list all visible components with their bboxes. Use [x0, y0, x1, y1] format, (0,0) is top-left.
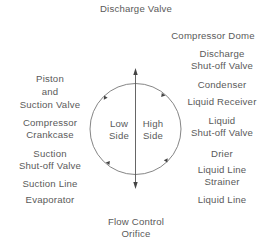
label-high-side: HighSide	[137, 118, 169, 143]
label-flow-control-orifice: Flow ControlOrifice	[95, 216, 177, 241]
label-liquid-shutoff-valve: LiquidShut-off Valve	[180, 115, 264, 140]
down-arrow-icon	[133, 182, 137, 189]
label-low-side: LowSide	[104, 118, 134, 143]
label-drier: Drier	[180, 148, 264, 160]
label-liquid-receiver: Liquid Receiver	[178, 96, 266, 108]
label-compressor-crankcase: CompressorCrankcase	[10, 117, 90, 142]
label-compressor-dome: Compressor Dome	[166, 30, 260, 42]
label-discharge-valve: Discharge Valve	[85, 3, 187, 15]
label-liquid-line: Liquid Line	[180, 194, 264, 206]
flow-arrow-icon	[164, 158, 168, 162]
label-condenser: Condenser	[180, 79, 264, 91]
up-arrow-icon	[133, 68, 137, 75]
label-suction-shutoff-valve: SuctionShut-off Valve	[8, 148, 92, 173]
label-suction-line: Suction Line	[10, 178, 90, 190]
label-liquid-line-strainer: Liquid LineStrainer	[180, 164, 264, 189]
label-piston-suction-valve: PistonandSuction Valve	[10, 72, 90, 112]
flow-arrow-icon	[104, 96, 108, 100]
label-evaporator: Evaporator	[10, 194, 90, 206]
label-discharge-shutoff-valve: DischargeShut-off Valve	[180, 48, 264, 73]
